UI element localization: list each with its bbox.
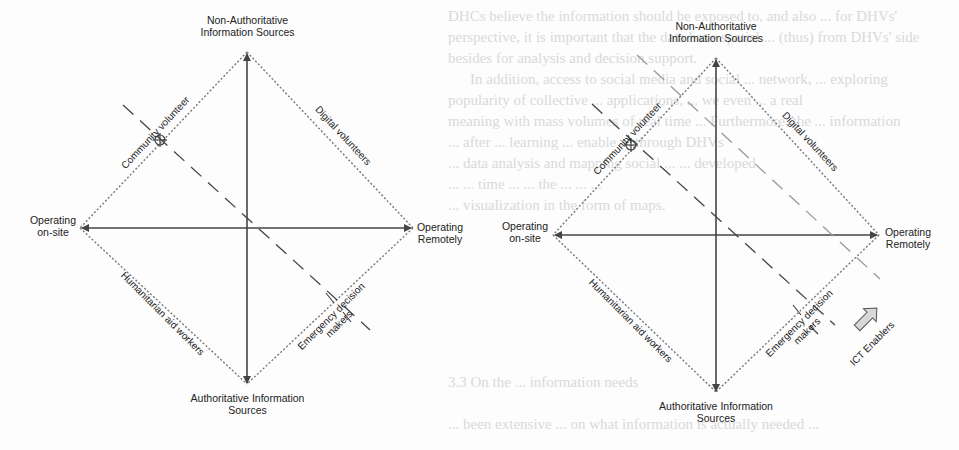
right-dashed-line-light [637,55,880,279]
right-label-remotely: Operating Remotely [880,226,936,250]
right-label-authoritative: Authoritative Information Sources [648,400,784,424]
left-label-non-authoritative: Non-Authoritative Information Sources [200,14,295,38]
left-label-on-site: Operating on-site [26,214,80,238]
right-axes [555,60,877,391]
label-text: Non-Authoritative Information Sources [669,20,763,44]
label-text: Authoritative Information Sources [659,400,773,424]
label-text: Authoritative Information Sources [191,392,305,416]
right-diagram [553,55,883,392]
left-label-authoritative: Authoritative Information Sources [180,392,315,416]
label-text: Operating on-site [30,214,76,238]
label-text: Operating Remotely [417,221,463,245]
left-diagram [80,52,413,384]
diagram-canvas [0,0,959,450]
label-text: Operating Remotely [885,226,931,250]
label-text: Non-Authoritative Information Sources [201,14,295,38]
left-axes [82,54,411,383]
right-label-non-authoritative: Non-Authoritative Information Sources [668,20,764,44]
right-label-on-site: Operating on-site [498,220,552,244]
label-text: Operating on-site [502,220,548,244]
left-label-remotely: Operating Remotely [412,221,468,245]
